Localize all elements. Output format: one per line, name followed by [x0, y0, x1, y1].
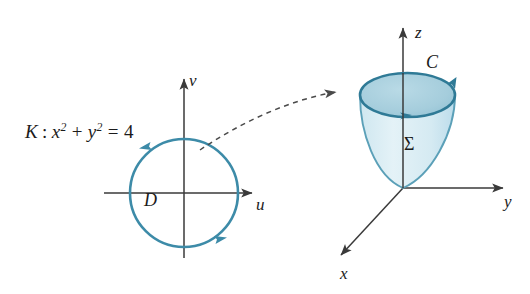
equation-equals: =	[108, 121, 119, 142]
equation-plus: +	[72, 121, 83, 142]
y-axis-label: y	[504, 193, 512, 210]
z-axis-label: z	[415, 24, 422, 41]
v-axis-label: v	[189, 72, 197, 89]
boundary-curve-label-C: C	[426, 53, 438, 71]
x-axis	[341, 188, 403, 255]
equation-term2-exponent: 2	[97, 121, 103, 134]
transfer-arrow	[200, 92, 336, 150]
figure-canvas: K : x2 + y2 = 4 v u D z y x C Σ	[0, 0, 530, 294]
surface-sigma	[360, 73, 457, 188]
circle-arrowhead-upper-left	[139, 142, 152, 150]
equation-term2-base: y	[88, 121, 97, 142]
equation-curve-name: K	[25, 121, 38, 142]
u-axis-label: u	[256, 196, 265, 213]
equation-term1-exponent: 2	[61, 121, 67, 134]
left-axes	[104, 79, 252, 258]
equation-value: 4	[124, 121, 134, 142]
circle-arrowhead-lower-right	[214, 236, 227, 244]
surface-label-sigma: Σ	[404, 135, 414, 153]
equation-term1-base: x	[52, 121, 61, 142]
equation-label-K: K : x2 + y2 = 4	[25, 122, 134, 141]
transfer-arrow-path	[200, 92, 336, 150]
diagram-svg	[0, 0, 530, 294]
x-axis-label: x	[340, 265, 348, 282]
region-label-D: D	[144, 191, 157, 209]
